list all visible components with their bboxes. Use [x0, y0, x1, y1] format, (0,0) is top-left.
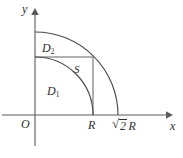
region-label-d1: D1: [47, 85, 59, 97]
arrow-up-icon: [31, 8, 39, 15]
arrow-right-icon: [166, 111, 173, 119]
radical-sign-icon: √: [112, 117, 119, 130]
region-label-d2: D2: [42, 42, 54, 54]
x-axis-label: x: [170, 120, 175, 132]
radical-group: √ 2: [112, 118, 127, 132]
origin-label: O: [21, 118, 30, 130]
geometry-diagram: [0, 0, 183, 158]
y-axis-label: y: [22, 3, 27, 15]
region-label-d2-subscript: 2: [51, 47, 55, 56]
region-label-s: S: [74, 64, 80, 75]
region-label-d1-subscript: 1: [56, 90, 60, 99]
figure-container: y x O R √ 2 R D2 D1 S: [0, 0, 183, 158]
x-tick-label-R: R: [88, 119, 95, 131]
radius-variable: R: [129, 119, 136, 133]
region-label-d1-base: D: [47, 84, 56, 98]
inner-arc-R: [35, 57, 93, 115]
region-label-d2-base: D: [42, 41, 51, 55]
radicand-value: 2: [119, 119, 127, 132]
x-tick-label-sqrt2R: √ 2 R: [112, 118, 136, 132]
